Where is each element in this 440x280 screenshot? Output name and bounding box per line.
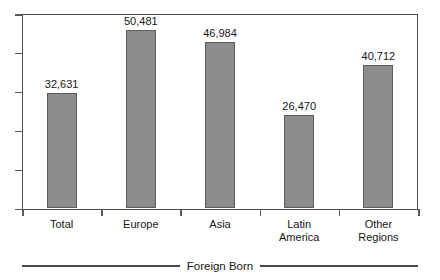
x-axis-tick <box>101 209 103 216</box>
y-axis-tick <box>15 92 22 94</box>
category-label: Total <box>22 218 102 231</box>
bar-value-label: 26,470 <box>259 100 339 112</box>
bar <box>126 30 156 209</box>
x-axis-line <box>22 209 418 211</box>
x-axis-tick <box>418 209 420 216</box>
bar-value-label: 46,984 <box>180 27 260 39</box>
y-axis-tick <box>15 53 22 55</box>
caption-row: Foreign Born <box>22 258 418 274</box>
x-axis-tick <box>180 209 182 216</box>
bar-chart-figure: 32,63150,48146,98426,47040,712 TotalEuro… <box>0 0 440 280</box>
x-axis-caption: Foreign Born <box>187 260 253 272</box>
x-axis-tick <box>22 209 24 216</box>
bar <box>363 65 393 209</box>
category-label: Europe <box>101 218 181 231</box>
category-label: Asia <box>180 218 260 231</box>
bar-value-label: 50,481 <box>101 15 181 27</box>
y-axis-tick <box>15 14 22 16</box>
bar-value-label: 40,712 <box>338 50 418 62</box>
bar <box>284 115 314 209</box>
x-axis-tick <box>260 209 262 216</box>
category-label: Other Regions <box>338 218 418 244</box>
caption-rule-right <box>260 265 418 266</box>
category-label: Latin America <box>259 218 339 244</box>
y-axis-tick <box>15 131 22 133</box>
y-axis-tick <box>15 209 22 211</box>
caption-rule-left <box>22 265 180 266</box>
y-axis-tick <box>15 170 22 172</box>
bar <box>205 42 235 208</box>
x-axis-tick <box>339 209 341 216</box>
bar <box>47 93 77 208</box>
bar-value-label: 32,631 <box>22 78 102 90</box>
